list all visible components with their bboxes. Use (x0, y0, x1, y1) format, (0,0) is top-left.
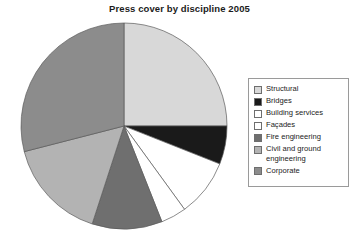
legend-swatch-civil-and-ground-engineering (254, 146, 262, 154)
legend-item[interactable]: Corporate (254, 166, 344, 176)
legend-item-label: Fire engineering (266, 132, 321, 142)
legend-item-label: Corporate (266, 166, 300, 176)
legend-item[interactable]: Building services (254, 108, 344, 118)
legend-item-label: Civil and ground engineering (266, 144, 321, 163)
legend-swatch-bridges (254, 98, 262, 106)
legend-item-label: Building services (266, 108, 323, 118)
legend-swatch-corporate (254, 167, 262, 175)
legend-item[interactable]: Civil and ground engineering (254, 144, 344, 163)
legend-item[interactable]: Façades (254, 120, 344, 130)
legend-item[interactable]: Bridges (254, 96, 344, 106)
pie-chart-plot-area (18, 20, 230, 232)
legend-swatch-building-services (254, 110, 262, 118)
legend-item-label: Bridges (266, 96, 292, 106)
legend-swatch-structural (254, 86, 262, 94)
legend-swatch-facades (254, 122, 262, 130)
legend-item[interactable]: Structural (254, 84, 344, 94)
legend-swatch-fire-engineering (254, 134, 262, 142)
pie-slice-group (21, 23, 227, 229)
legend-item[interactable]: Fire engineering (254, 132, 344, 142)
chart-title: Press cover by discipline 2005 (0, 3, 359, 14)
legend-item-label: Façades (266, 120, 295, 130)
legend-item-label: Structural (266, 84, 299, 94)
pie-chart-figure: Press cover by discipline 2005 Structura… (0, 0, 359, 244)
pie-slice[interactable] (124, 23, 227, 126)
chart-legend: StructuralBridgesBuilding servicesFaçade… (248, 78, 349, 187)
